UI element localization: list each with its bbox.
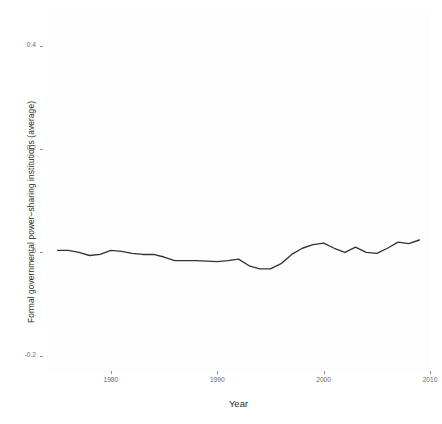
x-axis-title: Year — [47, 398, 430, 409]
x-axis-tick-label: 1990 — [197, 376, 237, 383]
x-axis-tick-mark — [217, 371, 218, 374]
x-axis-tick-label: 2000 — [304, 376, 344, 383]
line-series-power-sharing — [58, 240, 420, 269]
y-axis-tick-mark — [40, 149, 43, 150]
x-axis-tick-label: 2010 — [410, 376, 442, 383]
x-axis-tick-mark — [430, 371, 431, 374]
x-axis-tick-label: 1980 — [91, 376, 131, 383]
plot-panel — [47, 10, 430, 371]
x-axis-tick-mark — [324, 371, 325, 374]
x-axis-tick-mark — [111, 371, 112, 374]
y-axis-tick-mark — [40, 46, 43, 47]
y-axis-tick-mark — [40, 356, 43, 357]
y-axis-tick-mark — [40, 252, 43, 253]
data-series-line — [47, 10, 430, 371]
y-axis-title: Formal governmental power–sharing instit… — [22, 0, 40, 424]
